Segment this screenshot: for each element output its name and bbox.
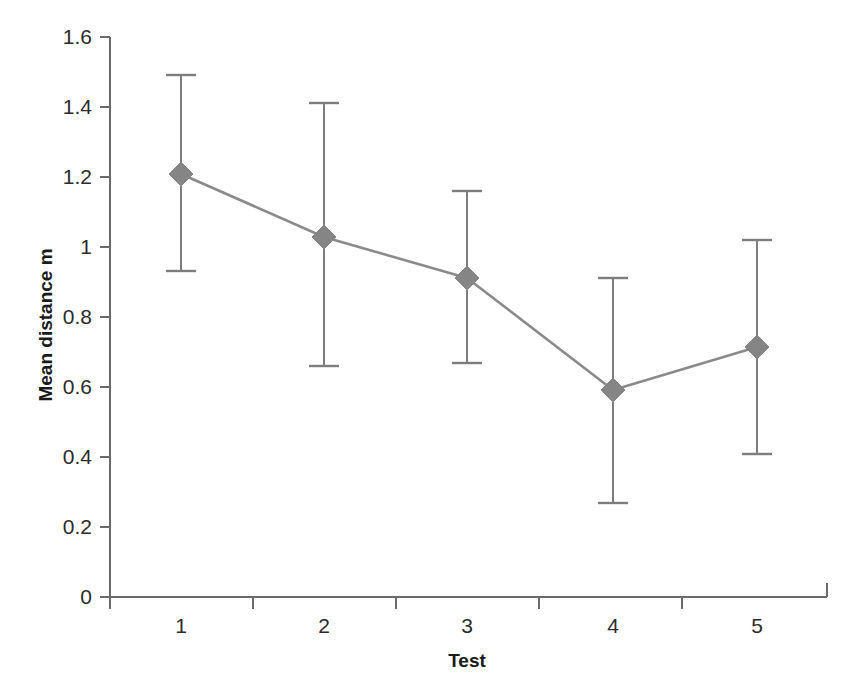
y-tick-label-5: 1 — [80, 235, 92, 258]
y-tick-label-4: 0.8 — [63, 305, 92, 328]
x-axis-label: Test — [448, 650, 486, 671]
y-tick-label-1: 0.2 — [63, 515, 92, 538]
y-tick-label-6: 1.2 — [63, 165, 92, 188]
x-tick-label-4: 4 — [607, 614, 619, 637]
y-tick-label-7: 1.4 — [63, 95, 93, 118]
y-axis-tick-labels: 0 0.2 0.4 0.6 0.8 1 1.2 1.4 1.6 — [63, 25, 93, 608]
x-tick-label-2: 2 — [318, 614, 330, 637]
y-tick-label-0: 0 — [80, 585, 92, 608]
y-tick-label-2: 0.4 — [63, 445, 93, 468]
line-chart-figure: 0 0.2 0.4 0.6 0.8 1 1.2 1.4 1.6 1 2 3 4 … — [0, 0, 855, 691]
x-tick-label-5: 5 — [751, 614, 763, 637]
chart-background — [0, 0, 855, 691]
y-axis-label: Mean distance m — [35, 248, 56, 401]
x-tick-label-3: 3 — [461, 614, 473, 637]
y-tick-label-3: 0.6 — [63, 375, 92, 398]
y-tick-label-8: 1.6 — [63, 25, 92, 48]
x-tick-label-1: 1 — [175, 614, 187, 637]
